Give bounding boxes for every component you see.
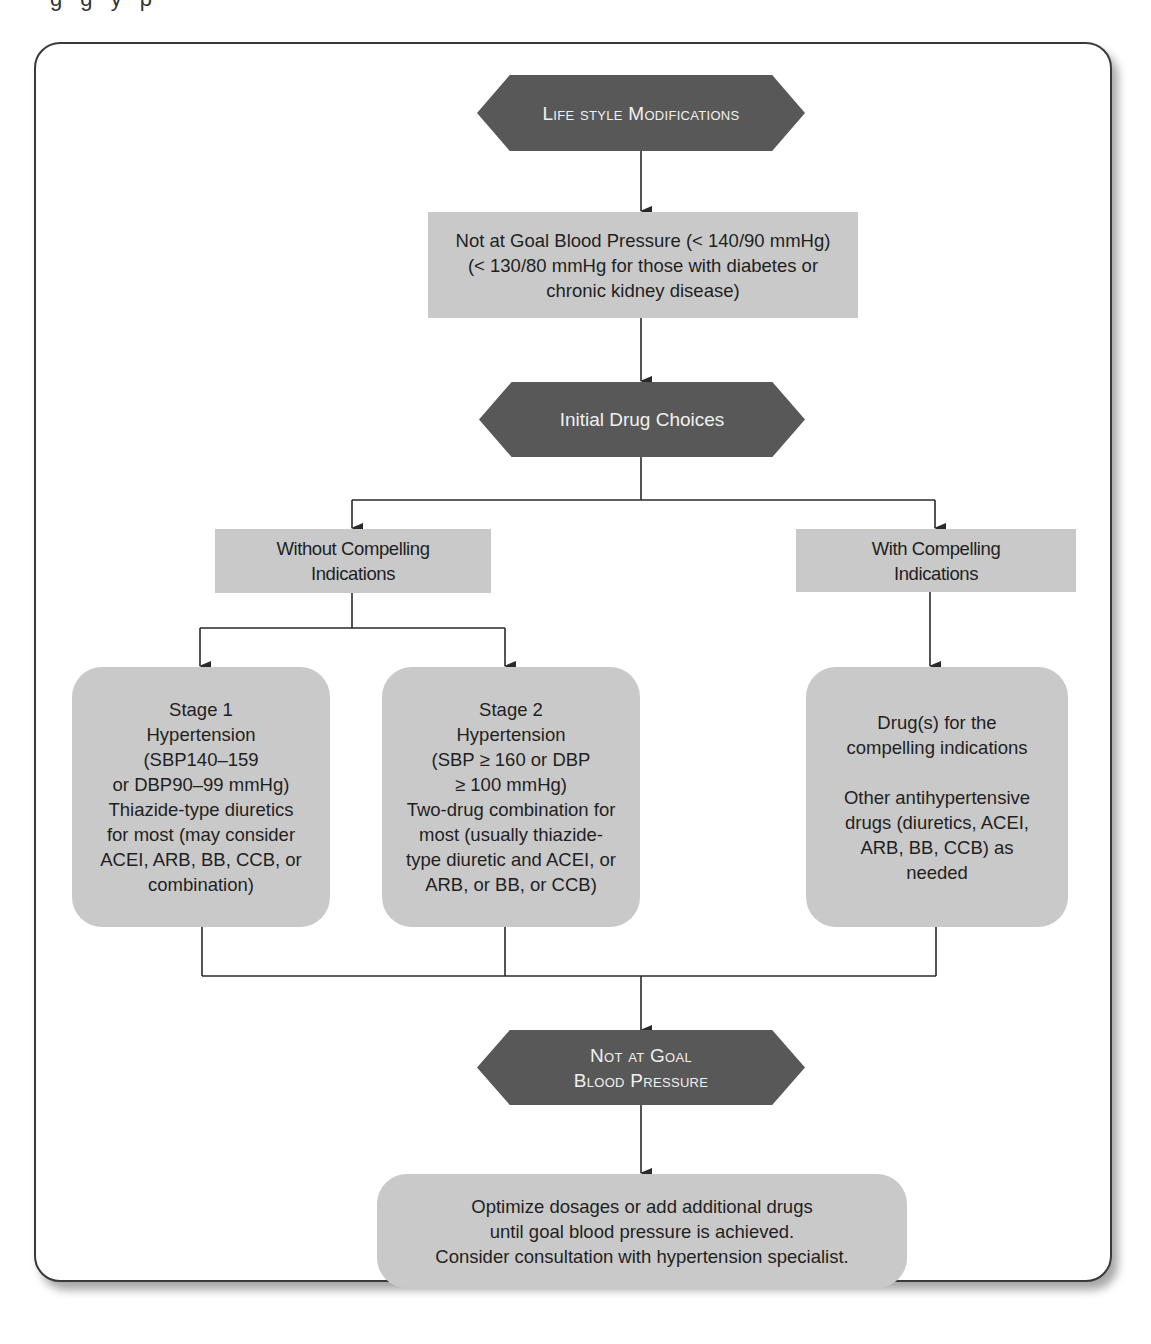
not-at-goal-node: Not at Goal Blood Pressure (477, 1030, 805, 1105)
compelling-drugs-text: Drug(s) for the compelling indications O… (844, 710, 1030, 885)
stage1-hypertension-box: Stage 1 Hypertension (SBP140–159 or DBP9… (72, 667, 330, 927)
with-compelling-indications-box: With Compelling Indications (796, 529, 1076, 592)
stage2-hypertension-text: Stage 2 Hypertension (SBP ≥ 160 or DBP ≥… (406, 697, 616, 897)
initial-drug-choices-node: Initial Drug Choices (479, 382, 805, 457)
not-at-goal-line1: Not at Goal (590, 1043, 692, 1068)
optimize-dosages-text: Optimize dosages or add additional drugs… (435, 1194, 848, 1269)
without-compelling-indications-text: Without Compelling Indications (276, 536, 429, 586)
without-compelling-indications-box: Without Compelling Indications (215, 529, 491, 593)
stage1-hypertension-text: Stage 1 Hypertension (SBP140–159 or DBP9… (100, 697, 302, 897)
compelling-drugs-box: Drug(s) for the compelling indications O… (806, 667, 1068, 927)
goal-blood-pressure-text: Not at Goal Blood Pressure (< 140/90 mmH… (456, 228, 831, 303)
with-compelling-indications-text: With Compelling Indications (872, 536, 1001, 586)
goal-blood-pressure-box: Not at Goal Blood Pressure (< 140/90 mmH… (428, 212, 858, 318)
lifestyle-modifications-node: Life style Modifications (477, 75, 805, 151)
optimize-dosages-box: Optimize dosages or add additional drugs… (377, 1174, 907, 1288)
stage2-hypertension-box: Stage 2 Hypertension (SBP ≥ 160 or DBP ≥… (382, 667, 640, 927)
lifestyle-modifications-label: Life style Modifications (542, 101, 739, 126)
not-at-goal-line2: Blood Pressure (574, 1068, 709, 1093)
cropped-header-text: g g y p (50, 0, 158, 12)
initial-drug-choices-label: Initial Drug Choices (560, 407, 725, 432)
